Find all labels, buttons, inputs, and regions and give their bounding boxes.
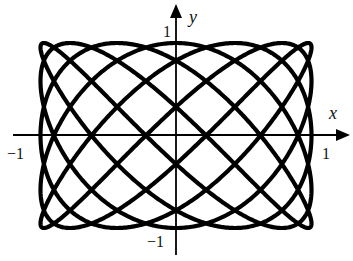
lissajous-plot: x y −1 1 1 −1 — [0, 0, 353, 261]
x-tick-label-1: 1 — [322, 145, 330, 162]
y-tick-label-neg1: −1 — [147, 233, 164, 250]
x-axis-arrow-icon — [336, 129, 350, 141]
x-tick-label-neg1: −1 — [7, 145, 24, 162]
y-tick-label-1: 1 — [163, 23, 171, 40]
y-axis-arrow-icon — [170, 4, 182, 18]
x-axis-label: x — [328, 103, 337, 123]
y-axis-label: y — [187, 7, 197, 27]
